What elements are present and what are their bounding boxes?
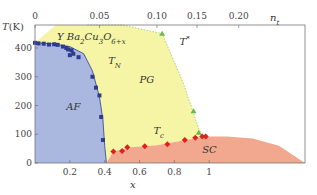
phase-regions xyxy=(35,25,305,163)
y-tick-label: 300 xyxy=(15,72,32,82)
data-point xyxy=(66,47,70,51)
data-point xyxy=(101,138,105,142)
label-sc: SC xyxy=(202,144,217,155)
x-axis-label: x xyxy=(130,179,136,190)
data-point xyxy=(42,42,46,46)
data-point xyxy=(61,45,65,49)
y-tick-label: 200 xyxy=(15,101,32,111)
data-point xyxy=(68,53,72,57)
label-t: T* xyxy=(180,35,191,47)
y-tick-label: 100 xyxy=(15,129,32,139)
top-x-tick-label: 0.10 xyxy=(147,11,167,21)
top-x-tick-label: 0 xyxy=(32,11,38,21)
data-point xyxy=(90,75,94,79)
x-tick-label: 0.4 xyxy=(98,167,113,177)
top-x-tick-label: 0.15 xyxy=(187,11,207,21)
x-tick-label: 0.6 xyxy=(132,167,147,177)
phase-diagram-chart: 0.20.40.60.81010020030040000.050.100.150… xyxy=(0,0,317,195)
x-tick-label: 0.8 xyxy=(167,167,182,177)
data-point xyxy=(99,115,103,119)
data-point xyxy=(97,93,101,97)
data-point xyxy=(70,48,74,52)
label-af: AF xyxy=(65,101,81,112)
data-point xyxy=(71,52,75,56)
x-tick-label: 0.2 xyxy=(63,167,77,177)
top-x-tick-label: 0.05 xyxy=(89,11,109,21)
data-point xyxy=(52,42,56,46)
top-x-tick-label: 0.20 xyxy=(229,11,249,21)
y-tick-label: 400 xyxy=(15,43,32,53)
data-point xyxy=(94,86,98,90)
x-tick-label: 1 xyxy=(206,167,212,177)
data-point xyxy=(36,41,40,45)
data-point xyxy=(56,43,60,47)
data-point xyxy=(47,43,51,47)
y-tick-label: 0 xyxy=(26,158,32,168)
label-pg: PG xyxy=(139,74,155,85)
data-point xyxy=(159,31,165,36)
y-axis-label: T(K) xyxy=(2,21,24,32)
data-point xyxy=(77,55,81,59)
